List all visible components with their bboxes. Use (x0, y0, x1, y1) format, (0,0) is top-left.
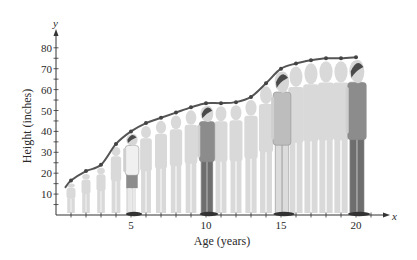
silhouette-torso (303, 84, 319, 141)
shoes (348, 212, 370, 216)
silhouette-torso (111, 156, 121, 181)
data-point (114, 142, 118, 146)
arm (346, 87, 349, 133)
silhouette-figure (155, 121, 167, 213)
figure-age-10 (197, 106, 218, 216)
data-point (234, 100, 238, 104)
arm (271, 96, 274, 139)
x-axis-variable: x (391, 210, 397, 222)
silhouette-torso (215, 121, 228, 162)
silhouette-leg (112, 180, 116, 213)
silhouette-figure (140, 126, 152, 213)
silhouette-head (260, 86, 272, 104)
silhouette-leg (192, 162, 197, 213)
silhouette-leg (267, 150, 272, 213)
data-point (129, 129, 133, 133)
data-point (189, 105, 193, 109)
silhouette-head (82, 174, 90, 179)
silhouette-leg (222, 160, 227, 213)
silhouette-head (245, 100, 256, 116)
silhouette-figure (259, 86, 273, 213)
silhouette-figure (229, 105, 242, 213)
shirt (273, 92, 291, 145)
silhouette-torso (140, 138, 152, 171)
silhouette-torso (170, 129, 182, 166)
data-point (219, 101, 223, 105)
y-tick-label: 60 (41, 84, 53, 96)
x-tick-label: 15 (276, 219, 288, 231)
silhouette-head (334, 61, 347, 82)
shirt (199, 122, 214, 162)
data-point (309, 58, 313, 62)
silhouette-head (231, 105, 242, 120)
pant-leg (275, 142, 281, 214)
data-point (99, 163, 103, 167)
silhouette-leg (141, 170, 145, 213)
silhouette-head (156, 121, 166, 134)
shoes (126, 212, 142, 216)
silhouette-leg (116, 180, 120, 213)
y-tick-label: 80 (41, 42, 53, 54)
pant-leg (207, 160, 213, 214)
silhouette-leg (97, 190, 100, 213)
data-point (294, 61, 298, 65)
silhouette-leg (319, 137, 325, 213)
silhouette-torso (229, 120, 242, 161)
shorts (126, 174, 137, 189)
x-axis-title: Age (years) (194, 234, 250, 248)
silhouette-leg (231, 159, 236, 213)
silhouette-figure (215, 106, 228, 213)
data-point (279, 67, 283, 71)
silhouette-leg (71, 198, 74, 213)
silhouette-leg (290, 140, 296, 213)
figure-age-5 (123, 134, 142, 216)
silhouette-leg (67, 198, 70, 213)
x-tick-label: 10 (201, 219, 213, 231)
y-axis-arrow-icon (54, 29, 59, 36)
silhouette-leg (342, 137, 348, 213)
silhouette-leg (237, 159, 242, 213)
silhouette-leg (216, 160, 221, 213)
silhouette-leg (146, 170, 150, 213)
silhouette-head (319, 61, 332, 82)
silhouette-head (141, 126, 151, 138)
y-axis-title: Height (inches) (20, 89, 34, 163)
silhouette-figure (318, 61, 334, 213)
silhouette-figure (303, 63, 319, 213)
shirt (348, 82, 367, 139)
x-axis-arrow-icon (383, 213, 390, 218)
silhouette-leg (186, 162, 191, 213)
data-point (339, 56, 343, 60)
data-point (174, 111, 178, 115)
y-axis-variable: y (52, 17, 58, 29)
silhouette-leg (334, 137, 340, 213)
silhouette-figure (111, 147, 121, 213)
x-tick-label: 20 (351, 219, 363, 231)
silhouette-head (216, 106, 227, 121)
y-tick-label: 70 (41, 63, 53, 75)
silhouette-torso (67, 188, 76, 199)
y-tick-label: 30 (41, 146, 53, 158)
data-point (264, 81, 268, 85)
silhouette-leg (101, 190, 104, 213)
arm (123, 148, 126, 172)
silhouette-leg (161, 167, 166, 213)
silhouette-head (186, 110, 197, 124)
silhouette-head (290, 66, 303, 87)
height-vs-age-chart: 51015201020304050607080 Age (years) Heig… (0, 0, 417, 260)
arm (197, 125, 200, 158)
silhouette-leg (156, 167, 161, 213)
silhouette-figure (96, 168, 105, 213)
data-point (69, 179, 73, 183)
background-silhouettes (67, 60, 364, 213)
silhouette-figure (185, 110, 198, 213)
silhouette-leg (86, 194, 89, 213)
y-tick-label: 50 (41, 105, 53, 117)
silhouette-leg (312, 138, 318, 213)
silhouette-torso (259, 104, 273, 152)
silhouette-leg (327, 137, 333, 213)
silhouette-leg (252, 156, 257, 213)
silhouette-head (304, 63, 317, 84)
y-tick-label: 10 (41, 188, 53, 200)
shirt (125, 145, 139, 175)
